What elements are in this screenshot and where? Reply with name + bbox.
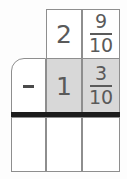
cell-row1-fraction: 9 10 — [82, 9, 120, 59]
minuend-fraction: 9 10 — [89, 12, 113, 55]
minuend-fraction-numerator: 9 — [95, 12, 107, 32]
cell-row2-operator — [11, 58, 46, 114]
minuend-whole-number: 2 — [56, 22, 72, 47]
subtrahend-whole-number: 1 — [56, 74, 72, 99]
cell-row2-fraction: 3 10 — [82, 58, 120, 114]
math-worksheet-problem: 2 9 10 1 3 10 — [0, 0, 127, 179]
cell-row3-whole[interactable] — [46, 117, 82, 172]
cell-row1-whole: 2 — [46, 9, 82, 59]
cell-row3-operator[interactable] — [11, 117, 46, 172]
cell-row2-whole: 1 — [46, 58, 82, 114]
subtrahend-fraction-numerator: 3 — [95, 64, 107, 84]
cell-row3-fraction[interactable] — [82, 117, 120, 172]
minuend-fraction-denominator: 10 — [89, 36, 113, 56]
subtrahend-fraction-denominator: 10 — [89, 88, 113, 108]
minus-icon — [23, 85, 34, 88]
subtrahend-fraction: 3 10 — [89, 64, 113, 107]
